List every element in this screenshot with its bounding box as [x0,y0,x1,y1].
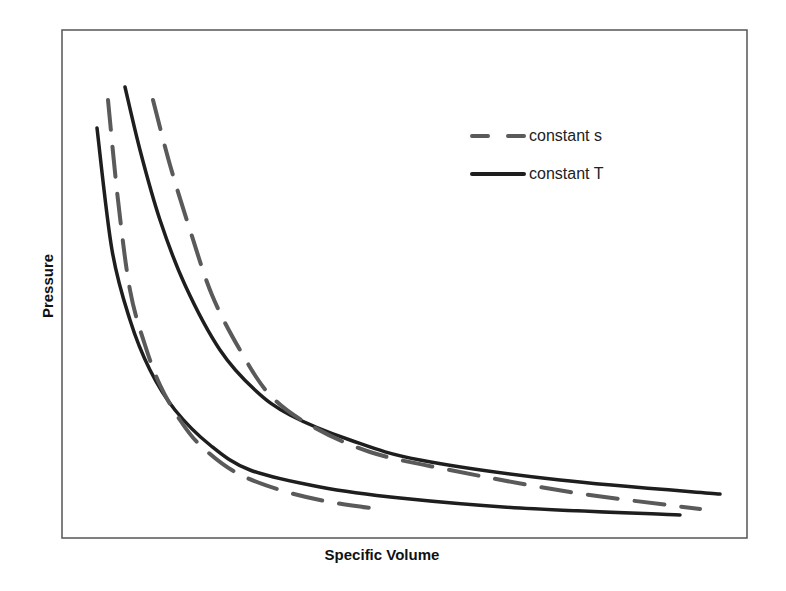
dashed-line-swatch-icon [470,133,526,139]
legend-label-constant-T: constant T [529,165,603,183]
y-axis-label: Pressure [39,254,56,318]
pv-diagram-plot [0,0,786,591]
solid-line-swatch-icon [470,171,526,177]
x-axis-label: Specific Volume [325,546,440,563]
legend-label-constant-s: constant s [529,127,602,145]
legend-item-constant-T: constant T [470,161,603,187]
legend: constant s constant T [470,123,603,199]
legend-item-constant-s: constant s [470,123,603,149]
